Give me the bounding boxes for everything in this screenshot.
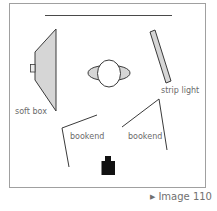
play-arrow-icon: ▶ (150, 193, 155, 201)
soft-box-mount (31, 65, 36, 73)
bookend-left-label: bookend (70, 132, 104, 141)
strip-light-label: strip light (161, 86, 199, 95)
caption-text: Image 110 (158, 191, 212, 202)
image-caption[interactable]: ▶Image 110 (150, 191, 212, 202)
camera-body (102, 161, 116, 175)
bookend-right-label: bookend (128, 132, 162, 141)
soft-box-label: soft box (15, 107, 47, 116)
subject-head (98, 60, 121, 87)
diagram-stage: soft box strip light bookend bookend ▶Im… (0, 0, 217, 211)
lighting-diagram: soft box strip light bookend bookend (0, 0, 217, 211)
